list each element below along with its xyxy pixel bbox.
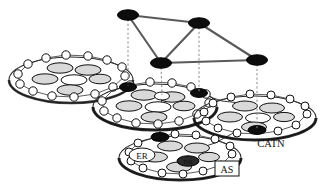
dashed-connections <box>128 15 257 129</box>
backbone-node-bb3[interactable] <box>151 58 172 68</box>
annotation-as: AS <box>215 161 239 176</box>
ring-inner-nodes <box>32 63 111 95</box>
gateway-node-gw1[interactable] <box>120 83 137 92</box>
backbone-edge-bb2-bb3 <box>161 23 199 63</box>
backbone-edge-bb2-bb4 <box>199 23 257 60</box>
as-label: AS <box>221 164 234 175</box>
diagram-canvas: ER BR AS CATN <box>0 0 328 190</box>
backbone-node-bb4[interactable] <box>247 55 268 65</box>
br-label: BR <box>183 158 193 166</box>
er-label: ER <box>136 151 148 161</box>
backbone-edge-bb1-bb3 <box>128 15 161 63</box>
ring-left[interactable] <box>9 51 133 103</box>
catn-label: CATN <box>257 138 285 149</box>
backbone-edge-bb3-bb4 <box>161 60 257 63</box>
gateway-node-gw2[interactable] <box>155 92 170 100</box>
backbone-node-bb1[interactable] <box>118 10 139 20</box>
annotation-br: BR <box>177 156 199 166</box>
backbone-node-bb2[interactable] <box>189 18 210 28</box>
annotation-er: ER <box>129 148 155 162</box>
gateway-node-gw5[interactable] <box>151 133 169 142</box>
